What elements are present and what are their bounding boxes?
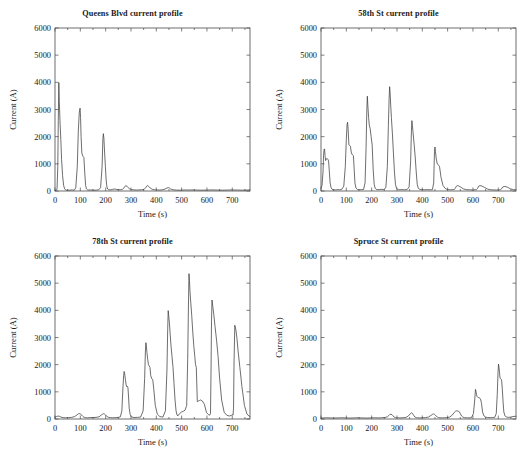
y-axis-tick-label: 2000 (34, 133, 51, 142)
x-axis-tick-label: 700 (492, 196, 505, 205)
chart-svg-58th-st: 0100200300400500600700010002000300040005… (266, 0, 531, 227)
y-axis-tick-label: 2000 (34, 361, 51, 370)
y-axis-label: Current (A) (8, 89, 18, 129)
y-axis-tick-label: 6000 (34, 252, 51, 261)
x-axis-tick-label: 100 (74, 424, 87, 433)
chart-svg-queens-blvd: 0100200300400500600700010002000300040005… (0, 0, 265, 227)
x-axis-tick-label: 500 (175, 196, 188, 205)
x-axis-tick-label: 200 (365, 424, 378, 433)
x-axis-tick-label: 400 (150, 424, 163, 433)
x-axis-tick-label: 600 (201, 196, 214, 205)
x-axis-tick-label: 0 (319, 424, 323, 433)
x-axis-tick-label: 300 (391, 424, 404, 433)
y-axis-tick-label: 3000 (300, 106, 317, 115)
x-axis-tick-label: 600 (467, 196, 480, 205)
axes-frame (321, 28, 516, 191)
y-axis-tick-label: 4000 (34, 306, 51, 315)
x-axis-tick-label: 100 (340, 196, 353, 205)
x-axis-tick-label: 500 (441, 196, 454, 205)
y-axis-tick-label: 5000 (300, 51, 317, 60)
x-axis-label: Time (s) (138, 437, 167, 447)
y-axis-tick-label: 3000 (300, 334, 317, 343)
x-axis-tick-label: 500 (441, 424, 454, 433)
x-axis-label: Time (s) (404, 437, 433, 447)
x-axis-tick-label: 100 (340, 424, 353, 433)
x-axis-tick-label: 100 (74, 196, 87, 205)
y-axis-tick-label: 1000 (34, 388, 51, 397)
y-axis-tick-label: 2000 (300, 133, 317, 142)
figure-canvas: Queens Blvd current profile 010020030040… (0, 0, 531, 455)
y-axis-label: Current (A) (274, 89, 284, 129)
x-axis-tick-label: 200 (99, 424, 112, 433)
x-axis-tick-label: 600 (201, 424, 214, 433)
y-axis-tick-label: 6000 (300, 252, 317, 261)
x-axis-label: Time (s) (404, 209, 433, 219)
x-axis-tick-label: 600 (467, 424, 480, 433)
subplot-58th-st: 58th St current profile 0100200300400500… (266, 0, 531, 227)
x-axis-tick-label: 300 (125, 424, 138, 433)
axes-frame (55, 256, 250, 419)
y-axis-tick-label: 3000 (34, 106, 51, 115)
y-axis-tick-label: 6000 (34, 24, 51, 33)
y-axis-tick-label: 5000 (34, 51, 51, 60)
x-axis-tick-label: 0 (53, 196, 57, 205)
x-axis-tick-label: 700 (226, 424, 239, 433)
y-axis-tick-label: 2000 (300, 361, 317, 370)
y-axis-tick-label: 0 (313, 415, 317, 424)
x-axis-label: Time (s) (138, 209, 167, 219)
x-axis-tick-label: 400 (150, 196, 163, 205)
axes-frame (321, 256, 516, 419)
data-series-line (55, 83, 250, 191)
chart-svg-spruce-st: 0100200300400500600700010002000300040005… (266, 228, 531, 455)
subplot-queens-blvd: Queens Blvd current profile 010020030040… (0, 0, 265, 227)
data-series-line (55, 274, 250, 418)
y-axis-tick-label: 4000 (300, 306, 317, 315)
x-axis-tick-label: 200 (365, 196, 378, 205)
x-axis-tick-label: 700 (226, 196, 239, 205)
y-axis-tick-label: 0 (47, 415, 51, 424)
y-axis-tick-label: 5000 (300, 279, 317, 288)
y-axis-tick-label: 5000 (34, 279, 51, 288)
x-axis-tick-label: 400 (416, 424, 429, 433)
y-axis-tick-label: 3000 (34, 334, 51, 343)
x-axis-tick-label: 500 (175, 424, 188, 433)
y-axis-tick-label: 1000 (300, 160, 317, 169)
y-axis-tick-label: 0 (313, 187, 317, 196)
data-series-line (321, 364, 516, 418)
y-axis-tick-label: 1000 (300, 388, 317, 397)
y-axis-label: Current (A) (8, 317, 18, 357)
x-axis-tick-label: 300 (391, 196, 404, 205)
x-axis-tick-label: 0 (319, 196, 323, 205)
x-axis-tick-label: 700 (492, 424, 505, 433)
x-axis-tick-label: 0 (53, 424, 57, 433)
chart-svg-78th-st: 0100200300400500600700010002000300040005… (0, 228, 265, 455)
subplot-78th-st: 78th St current profile 0100200300400500… (0, 228, 265, 455)
y-axis-tick-label: 6000 (300, 24, 317, 33)
data-series-line (321, 87, 516, 190)
x-axis-tick-label: 300 (125, 196, 138, 205)
y-axis-tick-label: 4000 (300, 78, 317, 87)
y-axis-tick-label: 4000 (34, 78, 51, 87)
subplot-spruce-st: Spruce St current profile 01002003004005… (266, 228, 531, 455)
y-axis-label: Current (A) (274, 317, 284, 357)
y-axis-tick-label: 0 (47, 187, 51, 196)
x-axis-tick-label: 200 (99, 196, 112, 205)
x-axis-tick-label: 400 (416, 196, 429, 205)
y-axis-tick-label: 1000 (34, 160, 51, 169)
